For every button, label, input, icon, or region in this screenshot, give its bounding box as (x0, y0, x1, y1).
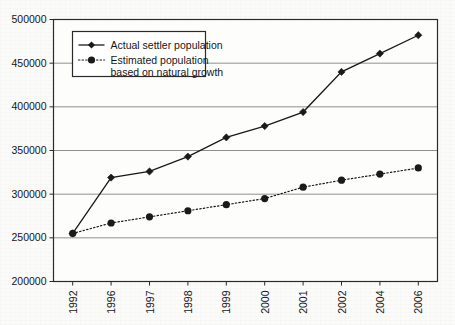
data-point-marker (108, 219, 115, 226)
y-axis-tick-label: 300000 (11, 188, 46, 200)
x-axis-tick-label: 1992 (67, 290, 79, 314)
y-axis-tick-label: 200000 (11, 275, 46, 287)
x-axis-tick-label: 2000 (259, 290, 271, 314)
data-point-marker (338, 177, 345, 184)
legend-label-1: Estimated population (111, 54, 209, 66)
y-axis-tick-label: 500000 (11, 13, 46, 25)
y-axis-tick-label: 250000 (11, 231, 46, 243)
x-axis-tick-label: 1999 (220, 290, 232, 314)
x-axis-tick-label: 1998 (182, 290, 194, 314)
y-axis-tick-label: 400000 (11, 100, 46, 112)
y-axis-tick-label: 350000 (11, 144, 46, 156)
data-point-marker (146, 213, 153, 220)
chart-legend: Actual settler populationEstimated popul… (73, 32, 224, 78)
x-axis-tick-label: 1997 (144, 290, 156, 314)
x-axis-tick-label: 2006 (412, 290, 424, 314)
legend-label-1: based on natural growth (111, 66, 224, 78)
chart-page: 2000002500003000003500004000004500005000… (0, 0, 455, 325)
x-axis-tick-label: 2004 (374, 290, 386, 314)
data-point-marker (184, 207, 191, 214)
x-axis-tick-label: 2002 (336, 290, 348, 314)
data-point-marker (415, 164, 422, 171)
data-point-marker (300, 184, 307, 191)
line-chart: 2000002500003000003500004000004500005000… (0, 0, 455, 325)
data-point-marker (261, 195, 268, 202)
data-point-marker (69, 230, 76, 237)
data-point-marker (376, 170, 383, 177)
y-axis-tick-label: 450000 (11, 57, 46, 69)
data-point-marker (223, 201, 230, 208)
x-axis-tick-label: 1996 (105, 290, 117, 314)
legend-swatch-marker-1 (88, 56, 95, 63)
legend-label-0: Actual settler population (111, 39, 223, 51)
x-axis-tick-label: 2001 (297, 290, 309, 314)
